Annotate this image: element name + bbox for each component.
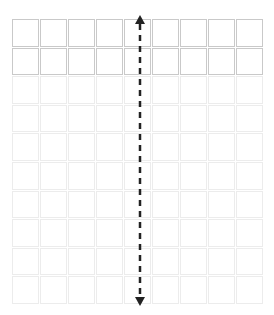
grid-cell-highlighted (236, 48, 263, 76)
grid-cell (236, 248, 263, 276)
grid-cell (96, 76, 123, 104)
grid-cell (12, 248, 39, 276)
grid-cell (40, 219, 67, 247)
grid-cell (40, 76, 67, 104)
grid-cell (124, 276, 151, 304)
grid-cell (236, 219, 263, 247)
grid-cell (152, 191, 179, 219)
grid-cell-highlighted (68, 19, 95, 47)
grid-cell (152, 162, 179, 190)
grid-cell-highlighted (124, 19, 151, 47)
grid-cell (68, 191, 95, 219)
grid-cell (12, 191, 39, 219)
grid-cell (208, 219, 235, 247)
grid-cell-highlighted (208, 48, 235, 76)
grid-cell (236, 133, 263, 161)
grid-cell (152, 248, 179, 276)
grid-cell (236, 276, 263, 304)
grid-cell (96, 191, 123, 219)
grid-cell (152, 133, 179, 161)
grid-cell (96, 105, 123, 133)
grid-cell (68, 276, 95, 304)
grid-cell-highlighted (40, 19, 67, 47)
grid-cell (40, 162, 67, 190)
grid-cell (208, 76, 235, 104)
grid-cell (12, 162, 39, 190)
grid-cell-highlighted (208, 19, 235, 47)
grid-cell (180, 191, 207, 219)
grid-cell (96, 133, 123, 161)
grid-cell (152, 76, 179, 104)
grid-cell (96, 248, 123, 276)
grid-cell (124, 162, 151, 190)
grid-cell (96, 219, 123, 247)
grid-cell (124, 76, 151, 104)
grid-cell (68, 76, 95, 104)
grid-cell (208, 162, 235, 190)
grid-cell (180, 105, 207, 133)
grid-cell (40, 133, 67, 161)
grid-cell (124, 133, 151, 161)
grid-cell (40, 248, 67, 276)
grid-cell-highlighted (96, 19, 123, 47)
grid-cell-highlighted (124, 48, 151, 76)
grid-cell (208, 105, 235, 133)
grid-cell-highlighted (180, 48, 207, 76)
cell-grid (12, 19, 263, 304)
grid-cell (124, 105, 151, 133)
grid-cell-highlighted (180, 19, 207, 47)
grid-cell (12, 276, 39, 304)
grid-cell (96, 276, 123, 304)
grid-cell (180, 76, 207, 104)
grid-cell-highlighted (12, 48, 39, 76)
grid-cell (180, 162, 207, 190)
grid-cell (236, 162, 263, 190)
grid-cell (40, 105, 67, 133)
grid-cell (12, 105, 39, 133)
grid-cell (236, 191, 263, 219)
grid-cell (180, 219, 207, 247)
grid-cell-highlighted (152, 19, 179, 47)
grid-cell (236, 105, 263, 133)
grid-cell (236, 76, 263, 104)
grid-cell (152, 276, 179, 304)
grid-cell (180, 276, 207, 304)
grid-cell-highlighted (152, 48, 179, 76)
grid-cell-highlighted (236, 19, 263, 47)
grid-cell (68, 248, 95, 276)
grid-cell (96, 162, 123, 190)
grid-cell (208, 276, 235, 304)
grid-cell (68, 133, 95, 161)
grid-cell-highlighted (96, 48, 123, 76)
grid-cell (40, 191, 67, 219)
grid-diagram (0, 0, 274, 315)
grid-cell (208, 248, 235, 276)
grid-cell (12, 219, 39, 247)
grid-cell (68, 105, 95, 133)
grid-cell (68, 162, 95, 190)
grid-cell (12, 133, 39, 161)
grid-cell (180, 133, 207, 161)
grid-cell-highlighted (12, 19, 39, 47)
grid-cell (40, 276, 67, 304)
grid-cell (208, 191, 235, 219)
grid-cell (152, 219, 179, 247)
grid-cell-highlighted (68, 48, 95, 76)
grid-cell (68, 219, 95, 247)
grid-cell (124, 219, 151, 247)
grid-cell (124, 191, 151, 219)
grid-cell (180, 248, 207, 276)
grid-cell-highlighted (40, 48, 67, 76)
grid-cell (124, 248, 151, 276)
grid-cell (12, 76, 39, 104)
grid-cell (208, 133, 235, 161)
grid-cell (152, 105, 179, 133)
